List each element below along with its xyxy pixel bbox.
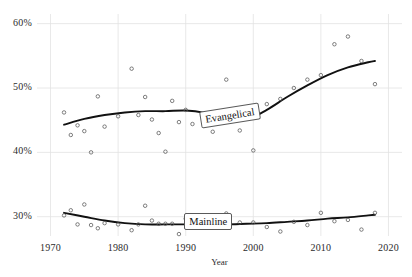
y-axis-tick-label: 50% <box>13 81 32 92</box>
y-axis-tick-label: 40% <box>13 145 32 156</box>
x-axis-tick-label: 2020 <box>363 242 412 253</box>
chart-container: 30%40%50%60% 197019801990200020102020 Ye… <box>0 0 412 277</box>
x-axis-tick-label: 2000 <box>228 242 278 253</box>
y-axis-tick-label: 30% <box>13 210 32 221</box>
x-axis-tick-label: 1990 <box>161 242 211 253</box>
x-axis-tick-label: 1970 <box>26 242 76 253</box>
trend-lines <box>64 61 375 225</box>
x-axis-label: Year <box>180 257 260 267</box>
x-axis-tick-label: 1980 <box>93 242 143 253</box>
x-axis-tick-label: 2010 <box>296 242 346 253</box>
series-label-mainline: Mainline <box>184 213 232 230</box>
scatter-points <box>62 35 376 236</box>
chart-plot-area <box>0 0 412 277</box>
y-axis-tick-label: 60% <box>13 17 32 28</box>
